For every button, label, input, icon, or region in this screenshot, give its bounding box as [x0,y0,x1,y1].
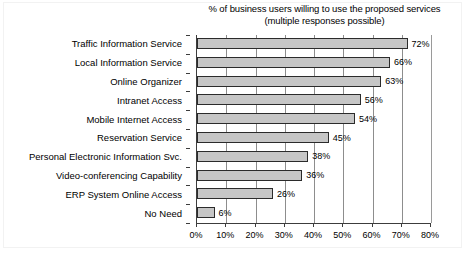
category-tick [186,167,190,168]
x-tick-label: 20% [240,229,270,241]
x-tick [430,223,431,227]
bar [197,38,408,49]
x-tick [401,223,402,227]
bar-series: 72%66%63%56%54%45%38%36%26%6% [197,35,431,223]
category-label: ERP System Online Access [0,189,182,201]
bar-value-label: 26% [277,187,295,201]
category-label: Online Organizer [0,76,182,88]
chart-title-line-2: (multiple responses possible) [183,15,466,27]
bar-row: 36% [197,167,431,186]
bar-row: 26% [197,185,431,204]
category-tick [186,35,190,36]
bar-row: 72% [197,35,431,54]
bar [197,94,361,105]
category-tick [186,91,190,92]
category-tick [186,223,190,224]
bar [197,170,302,181]
category-tick [186,54,190,55]
bar [197,113,355,124]
bar-value-label: 36% [306,168,324,182]
category-tick [186,148,190,149]
category-label: Mobile Internet Access [0,114,182,126]
bar-value-label: 63% [385,74,403,88]
category-tick [186,110,190,111]
category-label: Traffic Information Service [0,38,182,50]
bar-value-label: 54% [359,112,377,126]
bar [197,151,308,162]
bar-value-label: 45% [333,131,351,145]
bar-row: 66% [197,54,431,73]
bar [197,188,273,199]
x-tick [372,223,373,227]
x-tick [342,223,343,227]
bar [197,207,215,218]
plot-area: 72%66%63%56%54%45%38%36%26%6% [196,35,432,223]
x-tick [196,223,197,227]
x-tick [225,223,226,227]
x-tick-label: 80% [415,229,445,241]
x-tick-label: 40% [298,229,328,241]
bar-row: 6% [197,204,431,223]
chart-title: % of business users willing to use the p… [183,3,466,27]
x-tick-label: 50% [327,229,357,241]
category-label: No Need [0,208,182,220]
bar-chart: % of business users willing to use the p… [0,0,466,253]
category-label: Personal Electronic Information Svc. [0,151,182,163]
bar-row: 63% [197,73,431,92]
bar [197,132,329,143]
x-tick-label: 30% [269,229,299,241]
bar-row: 56% [197,91,431,110]
x-tick-label: 10% [210,229,240,241]
category-tick [186,73,190,74]
x-tick-label: 60% [357,229,387,241]
x-tick-label: 70% [386,229,416,241]
x-tick-label: 0% [181,229,211,241]
bar [197,76,381,87]
x-tick [284,223,285,227]
category-label: Intranet Access [0,95,182,107]
bar-row: 38% [197,148,431,167]
bar-value-label: 72% [412,37,430,51]
category-tick [186,185,190,186]
category-tick [186,129,190,130]
x-tick [255,223,256,227]
bar-value-label: 38% [312,149,330,163]
bar-value-label: 56% [365,93,383,107]
bar-value-label: 6% [219,206,232,220]
bar-row: 45% [197,129,431,148]
bar-value-label: 66% [394,55,412,69]
chart-title-line-1: % of business users willing to use the p… [183,3,466,15]
bar [197,57,390,68]
category-label: Reservation Service [0,132,182,144]
category-tick [186,204,190,205]
x-tick [313,223,314,227]
category-label: Video-conferencing Capability [0,170,182,182]
bar-row: 54% [197,110,431,129]
category-axis-labels: Traffic Information ServiceLocal Informa… [0,35,190,223]
category-label: Local Information Service [0,57,182,69]
